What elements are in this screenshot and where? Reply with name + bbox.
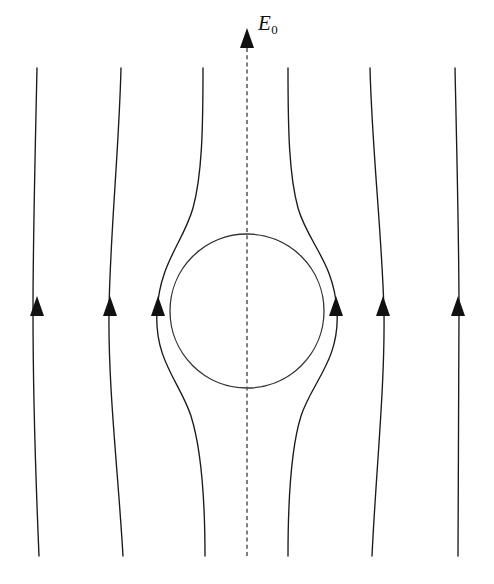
field-label-subscript: 0 — [271, 22, 278, 37]
field-arrow-icon-right-outer — [376, 296, 390, 316]
field-line-right-inner — [288, 68, 337, 556]
axis-arrow-icon — [240, 28, 254, 48]
field-arrow-icon-far-left — [30, 296, 44, 316]
field-line-left-inner — [157, 68, 205, 556]
field-diagram: E0 — [0, 0, 494, 584]
field-label-symbol: E — [258, 11, 271, 35]
field-lines-canvas — [0, 0, 494, 584]
field-arrow-icon-right-inner — [329, 296, 343, 316]
field-arrow-icon-far-right — [451, 296, 465, 316]
field-arrow-icon-left-outer — [103, 296, 117, 316]
field-arrow-icon-left-inner — [151, 296, 165, 316]
field-label-E0: E0 — [258, 13, 278, 36]
